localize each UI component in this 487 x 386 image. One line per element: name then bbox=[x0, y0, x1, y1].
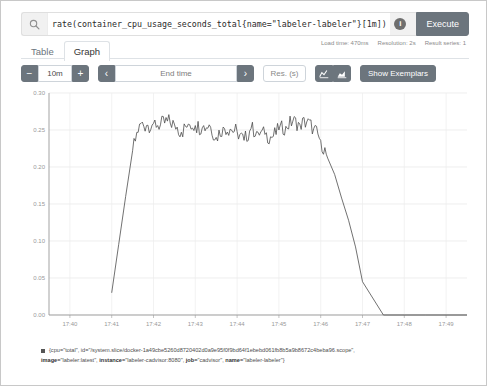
legend-swatch bbox=[41, 349, 45, 353]
query-bar: rate(container_cpu_usage_seconds_total{n… bbox=[21, 12, 469, 36]
legend-key-instance: instance= bbox=[99, 357, 125, 363]
range-input[interactable]: 10m bbox=[38, 65, 72, 82]
info-icon[interactable]: i bbox=[394, 18, 406, 30]
previous-time-button[interactable]: ‹ bbox=[98, 65, 115, 82]
y-axis-tick-label: 0.15 bbox=[33, 201, 45, 207]
legend-val-image: "labeler:latest", bbox=[60, 357, 99, 363]
time-series-chart[interactable]: 0.000.050.100.150.200.250.3017:4017:4117… bbox=[15, 87, 473, 337]
graph-toolbar: − 10m + ‹ End time › Res. (s) bbox=[21, 65, 436, 82]
legend-key-job: job= bbox=[186, 357, 198, 363]
query-input-wrapper[interactable]: rate(container_cpu_usage_seconds_total{n… bbox=[21, 12, 416, 36]
range-control: − 10m + bbox=[21, 65, 89, 82]
end-time-control: ‹ End time › bbox=[98, 65, 254, 82]
increase-range-button[interactable]: + bbox=[72, 65, 89, 82]
prometheus-graph-page: rate(container_cpu_usage_seconds_total{n… bbox=[0, 0, 487, 386]
legend-key-image: image= bbox=[41, 357, 60, 363]
tab-table[interactable]: Table bbox=[21, 41, 64, 61]
legend-labels-line1: {cpu="total", id="/system.slice/docker-1… bbox=[49, 347, 355, 353]
x-axis-tick-label: 17:41 bbox=[104, 321, 120, 327]
resolution-stat: Resolution: 2s bbox=[378, 40, 416, 46]
x-axis-tick-label: 17:44 bbox=[230, 321, 246, 327]
next-time-button[interactable]: › bbox=[237, 65, 254, 82]
x-axis-tick-label: 17:46 bbox=[313, 321, 329, 327]
x-axis-tick-label: 17:42 bbox=[146, 321, 162, 327]
chart-series-line bbox=[112, 115, 467, 315]
x-axis-tick-label: 17:45 bbox=[271, 321, 287, 327]
legend-key-name: name= bbox=[225, 357, 243, 363]
end-time-input[interactable]: End time bbox=[115, 65, 237, 82]
y-axis-tick-label: 0.10 bbox=[33, 238, 45, 244]
resolution-input[interactable]: Res. (s) bbox=[263, 65, 306, 82]
legend-val-instance: "labeler-cadvisor:8080", bbox=[125, 357, 186, 363]
show-exemplars-button[interactable]: Show Exemplars bbox=[360, 65, 436, 82]
x-axis-tick-label: 17:40 bbox=[62, 321, 78, 327]
execute-button[interactable]: Execute bbox=[416, 12, 469, 36]
y-axis-tick-label: 0.00 bbox=[33, 312, 45, 318]
view-tabs: Table Graph bbox=[21, 41, 110, 61]
line-chart-icon[interactable] bbox=[315, 65, 333, 82]
x-axis-tick-label: 17:49 bbox=[439, 321, 455, 327]
legend-val-job: "cadvisor", bbox=[197, 357, 225, 363]
x-axis-tick-label: 17:47 bbox=[355, 321, 371, 327]
legend-line-2: image="labeler:latest", instance="labele… bbox=[41, 355, 461, 365]
search-icon bbox=[29, 19, 40, 30]
series-legend[interactable]: {cpu="total", id="/system.slice/docker-1… bbox=[41, 345, 461, 366]
x-axis-tick-label: 17:48 bbox=[397, 321, 413, 327]
y-axis-tick-label: 0.05 bbox=[33, 275, 45, 281]
graph-panel[interactable]: 0.000.050.100.150.200.250.3017:4017:4117… bbox=[15, 87, 473, 337]
tab-graph[interactable]: Graph bbox=[64, 41, 110, 61]
legend-val-name: "labeler-labeler"} bbox=[243, 357, 284, 363]
x-axis-tick-label: 17:43 bbox=[188, 321, 204, 327]
query-stats: Load time: 470ms Resolution: 2s Result s… bbox=[321, 40, 466, 46]
load-time-stat: Load time: 470ms bbox=[321, 40, 369, 46]
decrease-range-button[interactable]: − bbox=[21, 65, 38, 82]
y-axis-tick-label: 0.25 bbox=[33, 127, 45, 133]
chart-type-control bbox=[315, 65, 351, 82]
result-series-stat: Result series: 1 bbox=[425, 40, 466, 46]
stacked-chart-icon[interactable] bbox=[333, 65, 351, 82]
query-input[interactable]: rate(container_cpu_usage_seconds_total{n… bbox=[47, 13, 390, 35]
y-axis-tick-label: 0.30 bbox=[33, 90, 45, 96]
legend-line-1: {cpu="total", id="/system.slice/docker-1… bbox=[41, 345, 461, 355]
y-axis-tick-label: 0.20 bbox=[33, 164, 45, 170]
